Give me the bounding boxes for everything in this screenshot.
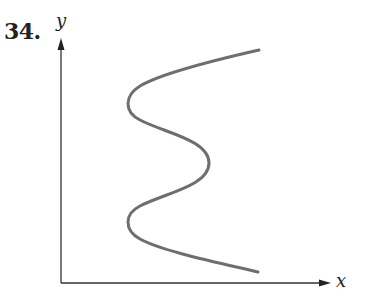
- graph-canvas: [0, 0, 365, 306]
- x-axis-arrowhead-icon: [319, 280, 331, 287]
- y-axis-arrowhead-icon: [58, 38, 65, 50]
- s-curve: [128, 50, 259, 272]
